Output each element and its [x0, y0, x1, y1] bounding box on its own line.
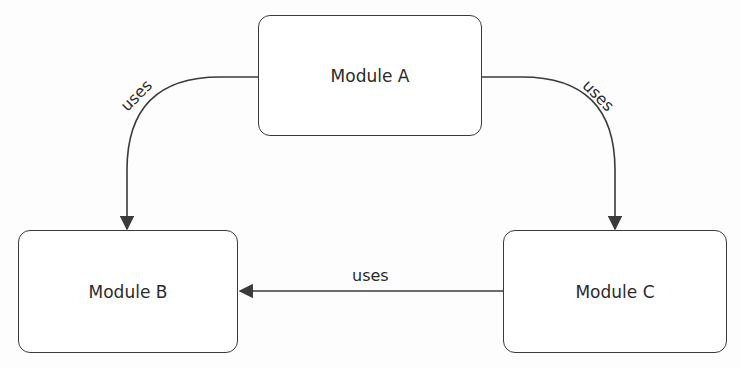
- node-module-a-label: Module A: [331, 66, 410, 86]
- edge-a-to-b: [127, 77, 258, 229]
- node-module-b[interactable]: Module B: [18, 230, 238, 353]
- node-module-b-label: Module B: [89, 282, 168, 302]
- node-module-a[interactable]: Module A: [258, 15, 482, 136]
- node-module-c[interactable]: Module C: [503, 230, 727, 353]
- node-module-c-label: Module C: [575, 282, 654, 302]
- edge-label-c-to-b: uses: [352, 266, 389, 285]
